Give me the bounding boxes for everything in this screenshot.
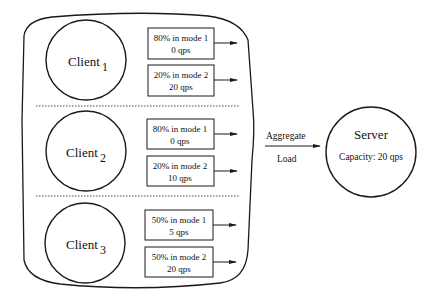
load-diagram: Client 1 80% in mode 1 0 qps 20% in mode… bbox=[0, 0, 437, 307]
client-1-mode-1-rate: 0 qps bbox=[171, 45, 191, 55]
client-1-mode-2-rate: 20 qps bbox=[169, 82, 193, 92]
client-1: Client 1 80% in mode 1 0 qps 20% in mode… bbox=[46, 20, 237, 100]
client-1-mode-2-share: 20% in mode 2 bbox=[154, 70, 209, 80]
client-3-label: Client bbox=[66, 237, 98, 252]
client-3-mode-2-rate: 20 qps bbox=[167, 264, 191, 274]
client-1-mode-1-share: 80% in mode 1 bbox=[154, 33, 209, 43]
client-1-label: Client bbox=[68, 54, 100, 69]
client-3-mode-1-rate: 5 qps bbox=[169, 227, 189, 237]
client-2-mode-2-share: 20% in mode 2 bbox=[153, 161, 208, 171]
aggregate-label: Aggregate bbox=[266, 131, 306, 141]
client-2-label: Client bbox=[66, 145, 98, 160]
client-3-mode-2-share: 50% in mode 2 bbox=[152, 252, 207, 262]
client-2: Client 2 80% in mode 1 0 qps 20% in mode… bbox=[46, 111, 237, 191]
client-2-mode-2-rate: 10 qps bbox=[168, 173, 192, 183]
client-3-mode-1-share: 50% in mode 1 bbox=[152, 215, 207, 225]
load-label: Load bbox=[277, 154, 297, 164]
client-3-index: 3 bbox=[100, 243, 106, 257]
client-2-index: 2 bbox=[100, 151, 106, 165]
server-capacity: Capacity: 20 qps bbox=[339, 152, 403, 162]
client-2-mode-1-share: 80% in mode 1 bbox=[153, 124, 208, 134]
client-group-container bbox=[22, 13, 254, 288]
aggregate-load: Aggregate Load bbox=[265, 131, 320, 164]
client-1-index: 1 bbox=[102, 60, 108, 74]
client-2-mode-1-rate: 0 qps bbox=[170, 136, 190, 146]
client-3: Client 3 50% in mode 1 5 qps 50% in mode… bbox=[45, 203, 236, 283]
server: Server Capacity: 20 qps bbox=[326, 107, 416, 197]
server-title: Server bbox=[354, 127, 389, 142]
